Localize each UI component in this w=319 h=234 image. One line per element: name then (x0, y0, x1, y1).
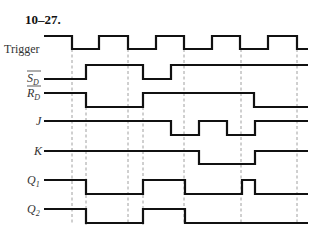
signal-labels: TriggerSDRDJKQ1Q2 (4, 42, 43, 218)
label-rd-bar: RD (26, 86, 40, 102)
label-sd-bar: SD (27, 71, 39, 87)
waveform-q2 (44, 209, 308, 223)
figure-title: 10–27. (25, 12, 61, 27)
waveform-q1 (44, 180, 308, 194)
waveform-rd-bar (44, 93, 308, 107)
waveform-j (44, 121, 308, 135)
waveform-k (44, 151, 308, 164)
waveforms (44, 36, 308, 223)
waveform-sd-bar (44, 65, 308, 79)
timing-diagram: 10–27. TriggerSDRDJKQ1Q2 (0, 0, 319, 234)
label-trigger: Trigger (4, 42, 40, 56)
label-k: K (33, 144, 43, 158)
label-q1: Q1 (27, 173, 40, 189)
guide-lines (72, 49, 297, 225)
label-q2: Q2 (27, 202, 40, 218)
label-j: J (36, 114, 42, 128)
waveform-trigger (44, 36, 308, 49)
